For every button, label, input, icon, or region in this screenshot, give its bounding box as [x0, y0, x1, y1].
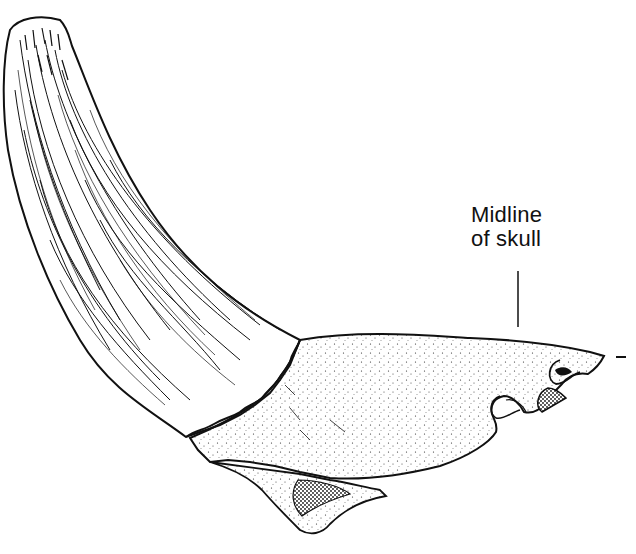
horn-core-illustration: Midline of skull — [0, 0, 636, 554]
horn-core — [4, 17, 300, 437]
midline-label-line1: Midline — [471, 203, 542, 227]
illustration-svg — [0, 0, 636, 554]
midline-label-line2: of skull — [471, 227, 542, 251]
midline-label: Midline of skull — [471, 203, 542, 251]
